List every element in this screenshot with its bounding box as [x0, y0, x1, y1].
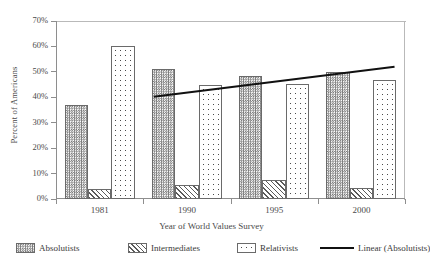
y-axis-tick-label: 60% — [8, 40, 48, 50]
x-axis-tick — [231, 199, 232, 204]
x-axis-tick-label: 1990 — [157, 205, 217, 215]
x-axis-tick — [405, 199, 406, 204]
legend-item[interactable]: Absolutists — [16, 243, 80, 253]
legend-label: Linear (Absolutists) — [358, 243, 430, 253]
legend-label: Relativists — [260, 243, 298, 253]
x-axis-tick — [318, 199, 319, 204]
trendline-layer — [56, 21, 405, 199]
x-axis-title: Year of World Values Survey — [0, 221, 423, 231]
x-axis-tick-label: 1995 — [244, 205, 304, 215]
checkerboard-swatch — [16, 243, 35, 253]
legend-label: Absolutists — [39, 243, 80, 253]
chart-legend: AbsolutistsIntermediatesRelativistsLinea… — [0, 243, 423, 265]
y-axis-tick-label: 40% — [8, 91, 48, 101]
x-axis-tick-label: 2000 — [331, 205, 391, 215]
legend-item[interactable]: Relativists — [237, 243, 298, 253]
y-axis-tick-label: 10% — [8, 168, 48, 178]
y-axis-tick-label: 20% — [8, 142, 48, 152]
y-axis-tick-label: 50% — [8, 66, 48, 76]
dotted-swatch — [237, 243, 256, 253]
x-axis-tick-label: 1981 — [70, 205, 130, 215]
legend-item[interactable]: Linear (Absolutists) — [320, 243, 430, 253]
legend-label: Intermediates — [151, 243, 200, 253]
trendline — [154, 67, 395, 97]
x-axis-tick — [56, 199, 57, 204]
y-axis-tick-label: 0% — [8, 193, 48, 203]
chart-title — [0, 0, 423, 3]
line-swatch — [320, 247, 354, 249]
y-axis-tick-label: 70% — [8, 15, 48, 25]
y-axis-tick-label: 30% — [8, 117, 48, 127]
hatch-swatch — [128, 243, 147, 253]
legend-item[interactable]: Intermediates — [128, 243, 200, 253]
x-axis-tick — [143, 199, 144, 204]
y-axis-title: Percent of Americans — [9, 35, 19, 175]
